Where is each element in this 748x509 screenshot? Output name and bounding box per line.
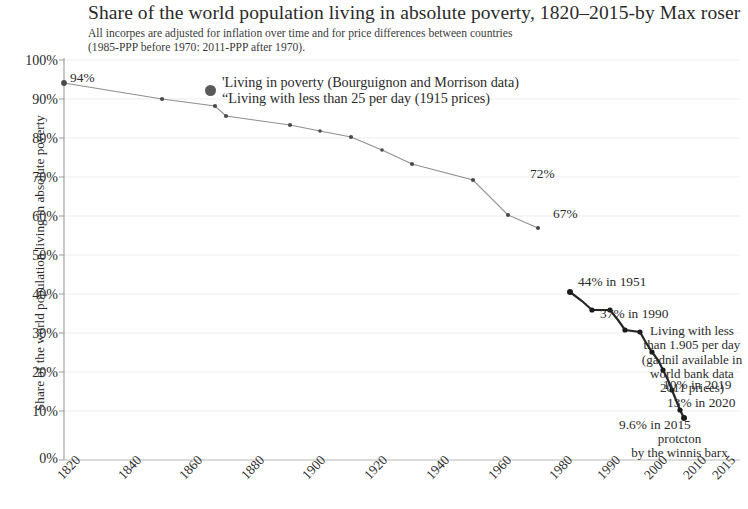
poverty-chart: Share of the world population living in … <box>0 0 748 509</box>
annotation-67-percent: 67% <box>553 207 578 221</box>
legend-entry-historical: 'Living in poverty (Bourguignon and Morr… <box>222 74 519 91</box>
annotation-44-in-1951: 44% in 1951 <box>578 275 646 289</box>
legend-entry-modern: “Living with less than 25 per day (1915 … <box>222 90 490 107</box>
annotation-37-in-1990: 37% in 1990 <box>600 307 668 321</box>
y-axis-ticks <box>59 60 64 460</box>
description-line-2: than 1.905 per day <box>638 338 746 352</box>
annotation-13-in-2020: 13% in 2020 <box>667 396 735 410</box>
description-line-3: (gadnil available in <box>638 353 746 367</box>
legend-marker-icon <box>205 85 216 96</box>
footer-line-1: protcton <box>617 432 742 446</box>
annotation-94-percent: 94% <box>70 71 95 85</box>
annotation-72-percent: 72% <box>530 167 555 181</box>
description-line-4: world bank data <box>638 367 746 381</box>
annotation-description-block: Living with less than 1.905 per day (gad… <box>638 324 746 395</box>
description-line-1: Living with less <box>638 324 746 338</box>
description-line-5: 2011 prices) <box>638 381 746 395</box>
